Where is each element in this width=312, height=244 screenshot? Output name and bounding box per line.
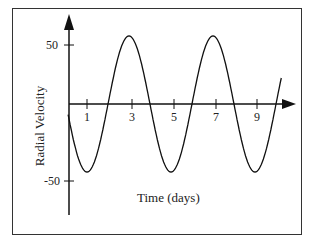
x-axis-label: Time (days) [137, 190, 200, 206]
y-axis-label: Radial Velocity [32, 76, 48, 176]
x-tick-1: 1 [84, 110, 90, 125]
y-tick-neg50: -50 [44, 174, 60, 189]
y-tick-50: 50 [46, 38, 58, 53]
x-tick-3: 3 [129, 110, 135, 125]
x-tick-7: 7 [213, 110, 219, 125]
x-tick-5: 5 [171, 110, 177, 125]
x-tick-9: 9 [254, 110, 260, 125]
